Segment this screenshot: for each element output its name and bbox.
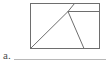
- figure-background: [0, 0, 106, 63]
- figure-container: a.: [0, 0, 106, 63]
- geometry-figure-svg: [0, 0, 106, 63]
